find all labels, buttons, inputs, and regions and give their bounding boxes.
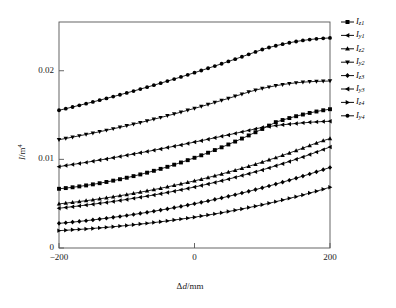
- marker-left-triangle: [213, 136, 217, 140]
- marker-right-triangle: [213, 212, 217, 216]
- marker-circle: [346, 114, 350, 118]
- marker-square: [91, 182, 95, 186]
- marker-square: [281, 118, 285, 122]
- marker-circle: [206, 66, 210, 70]
- marker-square: [179, 161, 183, 165]
- marker-diamond: [138, 211, 142, 216]
- marker-diamond: [172, 205, 176, 210]
- marker-left-triangle: [118, 154, 122, 158]
- marker-circle: [260, 48, 264, 52]
- marker-diamond: [111, 215, 115, 220]
- marker-right-triangle: [193, 215, 197, 219]
- marker-left-triangle: [301, 155, 305, 159]
- marker-left-triangle: [179, 188, 183, 192]
- marker-left-triangle: [84, 203, 88, 207]
- marker-diamond: [226, 194, 230, 199]
- marker-circle: [233, 57, 237, 61]
- marker-circle: [186, 73, 190, 77]
- marker-square: [346, 20, 350, 24]
- marker-diamond: [253, 187, 257, 192]
- marker-left-triangle: [246, 172, 250, 176]
- marker-square: [226, 143, 230, 147]
- marker-square: [301, 113, 305, 117]
- marker-right-triangle: [254, 204, 258, 208]
- marker-square: [308, 111, 312, 115]
- marker-diamond: [321, 167, 325, 172]
- marker-right-triangle: [78, 227, 82, 231]
- marker-right-triangle: [139, 222, 143, 226]
- marker-right-triangle: [281, 198, 285, 202]
- marker-circle: [328, 36, 332, 40]
- marker-circle: [111, 95, 115, 99]
- marker-left-triangle: [246, 128, 250, 132]
- marker-left-triangle: [77, 161, 81, 165]
- marker-circle: [267, 46, 271, 50]
- marker-up-triangle: [328, 136, 332, 140]
- series-Iy4: [57, 36, 332, 112]
- marker-diamond: [77, 219, 81, 224]
- marker-left-triangle: [179, 143, 183, 147]
- marker-right-triangle: [200, 214, 204, 218]
- legend-sample-Iz1: [341, 20, 354, 24]
- marker-right-triangle: [105, 225, 109, 229]
- marker-square: [193, 156, 197, 160]
- legend-label-Iz3: Iz3: [356, 70, 364, 80]
- marker-diamond: [125, 213, 129, 218]
- marker-left-triangle: [172, 144, 176, 148]
- marker-down-triangle: [57, 138, 61, 142]
- marker-circle: [321, 36, 325, 40]
- marker-left-triangle: [321, 119, 325, 123]
- marker-circle: [64, 107, 68, 111]
- marker-square: [145, 171, 149, 175]
- marker-diamond: [267, 184, 271, 189]
- marker-right-triangle: [227, 209, 231, 213]
- marker-left-triangle: [260, 168, 264, 172]
- marker-left-triangle: [172, 189, 176, 193]
- marker-square: [98, 181, 102, 185]
- marker-right-triangle: [261, 203, 265, 207]
- marker-diamond: [308, 172, 312, 177]
- marker-circle: [193, 71, 197, 75]
- marker-right-triangle: [64, 228, 68, 232]
- marker-circle: [57, 108, 61, 112]
- marker-diamond: [206, 199, 210, 204]
- legend-label-Iy3: Iy3: [356, 83, 365, 93]
- marker-left-triangle: [145, 149, 149, 153]
- marker-right-triangle: [233, 208, 237, 212]
- marker-left-triangle: [314, 150, 318, 154]
- series-line: [59, 139, 330, 204]
- marker-circle: [179, 75, 183, 79]
- marker-right-triangle: [294, 194, 298, 198]
- marker-left-triangle: [199, 183, 203, 187]
- marker-diamond: [199, 200, 203, 205]
- marker-left-triangle: [240, 173, 244, 177]
- marker-right-triangle: [91, 226, 95, 230]
- marker-circle: [315, 37, 319, 41]
- legend-sample-Iz4: [341, 100, 354, 105]
- marker-left-triangle: [111, 199, 115, 203]
- marker-diamond: [287, 178, 291, 183]
- marker-left-triangle: [111, 156, 115, 160]
- marker-left-triangle: [104, 200, 108, 204]
- marker-left-triangle: [199, 138, 203, 142]
- marker-left-triangle: [233, 131, 237, 135]
- marker-left-triangle: [294, 121, 298, 125]
- marker-right-triangle: [125, 223, 129, 227]
- marker-left-triangle: [294, 157, 298, 161]
- series-Iz2: [57, 136, 332, 205]
- marker-left-triangle: [185, 186, 189, 190]
- marker-left-triangle: [226, 177, 230, 181]
- marker-left-triangle: [301, 121, 305, 125]
- marker-diamond: [274, 182, 278, 187]
- marker-diamond: [260, 186, 264, 191]
- legend-sample-Iz2: [341, 46, 354, 50]
- marker-diamond: [98, 217, 102, 222]
- marker-left-triangle: [63, 205, 67, 209]
- marker-diamond: [131, 212, 135, 217]
- marker-right-triangle: [322, 187, 326, 191]
- marker-left-triangle: [91, 159, 95, 163]
- marker-circle: [138, 87, 142, 91]
- marker-left-triangle: [192, 140, 196, 144]
- marker-right-triangle: [240, 207, 244, 211]
- marker-right-triangle: [71, 228, 75, 232]
